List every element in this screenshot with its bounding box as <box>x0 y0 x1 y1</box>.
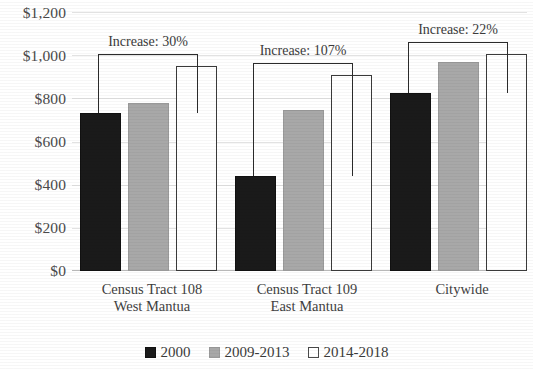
bar-2009-2013-citywide[interactable] <box>438 62 479 271</box>
bar-2000-citywide[interactable] <box>390 93 431 271</box>
legend-item-2000[interactable]: 2000 <box>145 344 191 361</box>
chart-legend: 2000 2009-2013 2014-2018 <box>0 344 533 361</box>
y-tick-400: $400 <box>35 177 66 193</box>
category-label-tract109: Census Tract 109 East Mantua <box>227 281 387 315</box>
bar-group-citywide: Increase: 22% <box>386 12 533 271</box>
bar-group-census-tract-108: Increase: 30% <box>76 12 228 271</box>
legend-label-2014-2018: 2014-2018 <box>324 344 389 361</box>
category-label-tract109-line2: East Mantua <box>227 298 387 315</box>
increase-bracket-tract109 <box>253 63 353 176</box>
y-tick-0: $0 <box>50 263 66 279</box>
category-label-tract108: Census Tract 108 West Mantua <box>72 281 232 315</box>
legend-swatch-2014-2018-icon <box>308 347 319 358</box>
increase-label-tract108: Increase: 30% <box>68 34 228 50</box>
y-axis-labels: $1,200 $1,000 $800 $600 $400 $200 $0 <box>0 0 66 283</box>
increase-bracket-citywide <box>408 42 508 93</box>
bar-2000-tract109[interactable] <box>235 176 276 271</box>
bar-2000-tract108[interactable] <box>80 113 121 271</box>
legend-swatch-2000-icon <box>145 347 156 358</box>
bar-group-census-tract-109: Increase: 107% <box>231 12 383 271</box>
plot-area: Increase: 30% Increase: 107% Increase: 2… <box>72 12 527 271</box>
legend-label-2000: 2000 <box>161 344 191 361</box>
increase-label-tract109: Increase: 107% <box>223 43 383 59</box>
legend-item-2014-2018[interactable]: 2014-2018 <box>308 344 389 361</box>
category-label-citywide: Citywide <box>382 281 533 298</box>
category-label-citywide-line1: Citywide <box>435 281 488 297</box>
bar-chart: $1,200 $1,000 $800 $600 $400 $200 $0 Inc… <box>0 0 533 369</box>
bar-2009-2013-tract108[interactable] <box>128 103 169 271</box>
category-label-tract109-line1: Census Tract 109 <box>257 281 358 297</box>
y-tick-800: $800 <box>35 91 66 107</box>
increase-label-citywide: Increase: 22% <box>378 22 533 38</box>
increase-bracket-tract108 <box>98 54 198 113</box>
y-tick-1200: $1,200 <box>23 5 66 21</box>
category-label-tract108-line1: Census Tract 108 <box>102 281 203 297</box>
y-tick-600: $600 <box>35 134 66 150</box>
legend-label-2009-2013: 2009-2013 <box>225 344 290 361</box>
legend-item-2009-2013[interactable]: 2009-2013 <box>209 344 290 361</box>
legend-swatch-2009-2013-icon <box>209 347 220 358</box>
category-label-tract108-line2: West Mantua <box>72 298 232 315</box>
y-tick-200: $200 <box>35 220 66 236</box>
y-tick-1000: $1,000 <box>23 48 66 64</box>
